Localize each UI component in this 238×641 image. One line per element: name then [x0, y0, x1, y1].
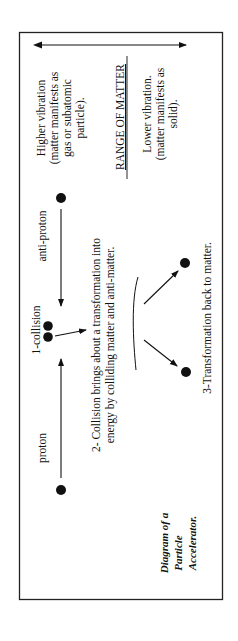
higher-line-1: Higher vibration: [35, 80, 48, 157]
caption-line-1: Diagram of a: [158, 512, 170, 574]
lower-line-2: (matter manifests as: [154, 67, 167, 160]
higher-line-2: (matter manifests as: [48, 71, 61, 164]
higher-vibration-text: Higher vibration (matter manifests as ga…: [35, 71, 87, 164]
step3-label: 3-Transformation back to matter.: [201, 242, 213, 394]
particle-accelerator-diagram: Higher vibration (matter manifests as ga…: [0, 0, 238, 641]
range-arrowhead-left-icon: [33, 42, 42, 49]
matter-dot-upper-icon: [180, 258, 190, 268]
split-arrow-upper: [144, 271, 178, 304]
split-arrow-lower: [144, 340, 177, 366]
collision-dot-1-icon: [43, 321, 53, 331]
lower-line-1: Lower vibration.: [141, 75, 153, 152]
anti-proton-label: anti-proton: [36, 210, 49, 261]
step2-line-2: energy by colliding matter and anti-matt…: [104, 247, 117, 444]
matter-dot-lower-icon: [181, 367, 191, 377]
collision-to-energy-arrow: [55, 330, 86, 336]
higher-line-4: particle).: [74, 97, 87, 138]
caption-line-2: Particle: [172, 535, 184, 571]
step2-line-1: 2- Collision brings about a transformati…: [90, 238, 103, 452]
anti-proton-dot-icon: [56, 193, 66, 203]
collision-label: 1-collision: [30, 305, 42, 354]
lower-line-3: solid).: [167, 99, 180, 128]
caption-line-3: Accelerator.: [186, 516, 198, 572]
collision-dot-2-icon: [43, 332, 53, 342]
range-of-matter-title: RANGE OF MATTER: [114, 64, 126, 170]
higher-line-3: gas or subatomic: [61, 79, 74, 157]
proton-dot-icon: [56, 485, 66, 495]
proton-label: proton: [36, 433, 49, 463]
bracket-curve: [133, 277, 138, 370]
